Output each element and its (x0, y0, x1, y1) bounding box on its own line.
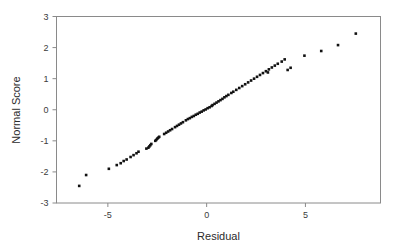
y-tick-label: 0 (43, 105, 48, 115)
data-point (303, 54, 306, 57)
data-point (276, 62, 279, 65)
data-point (78, 185, 81, 188)
y-axis-title: Normal Score (10, 76, 22, 143)
data-point (337, 44, 340, 47)
data-point (289, 66, 292, 69)
x-axis-title: Residual (197, 230, 240, 242)
data-point (271, 66, 274, 69)
y-axis-ticks: 3210-1-2-3 (40, 12, 56, 209)
data-point (132, 154, 135, 157)
x-tick-label: -5 (104, 210, 112, 220)
data-point (280, 60, 283, 63)
data-point (122, 160, 125, 163)
data-point (171, 128, 174, 131)
data-point (286, 69, 289, 72)
data-point (283, 58, 286, 61)
scatter-points (78, 32, 357, 187)
y-tick-label: -3 (40, 198, 48, 208)
data-point (247, 81, 250, 84)
y-tick-label: 1 (43, 74, 48, 84)
data-point (235, 89, 238, 92)
data-point (119, 162, 122, 165)
y-tick-label: -2 (40, 167, 48, 177)
data-point (259, 74, 262, 77)
data-point (267, 71, 270, 74)
data-point (244, 83, 247, 86)
x-axis-ticks: -505 (104, 203, 308, 220)
data-point (85, 174, 88, 177)
y-tick-label: 2 (43, 43, 48, 53)
data-point (253, 77, 256, 80)
data-point (182, 121, 185, 124)
qq-plot-svg: 3210-1-2-3 -505 Residual Normal Score (0, 0, 397, 247)
data-point (320, 50, 323, 53)
data-point (355, 32, 358, 35)
data-point (227, 94, 230, 97)
x-tick-label: 0 (204, 210, 209, 220)
data-point (150, 143, 153, 146)
x-tick-label: 5 (303, 210, 308, 220)
data-point (108, 168, 111, 171)
data-point (129, 156, 132, 159)
plot-frame (57, 17, 381, 204)
data-point (256, 76, 259, 79)
data-point (232, 90, 235, 93)
data-point (262, 72, 265, 75)
data-point (250, 79, 253, 82)
data-point (115, 164, 118, 167)
data-point (158, 135, 161, 138)
data-point (238, 87, 241, 90)
data-point (241, 85, 244, 88)
data-point (125, 158, 128, 161)
data-point (268, 68, 271, 71)
normal-probability-plot-figure: 3210-1-2-3 -505 Residual Normal Score (0, 0, 397, 247)
data-point (137, 150, 140, 153)
y-tick-label: -1 (40, 136, 48, 146)
data-point (274, 64, 277, 67)
y-tick-label: 3 (43, 12, 48, 22)
